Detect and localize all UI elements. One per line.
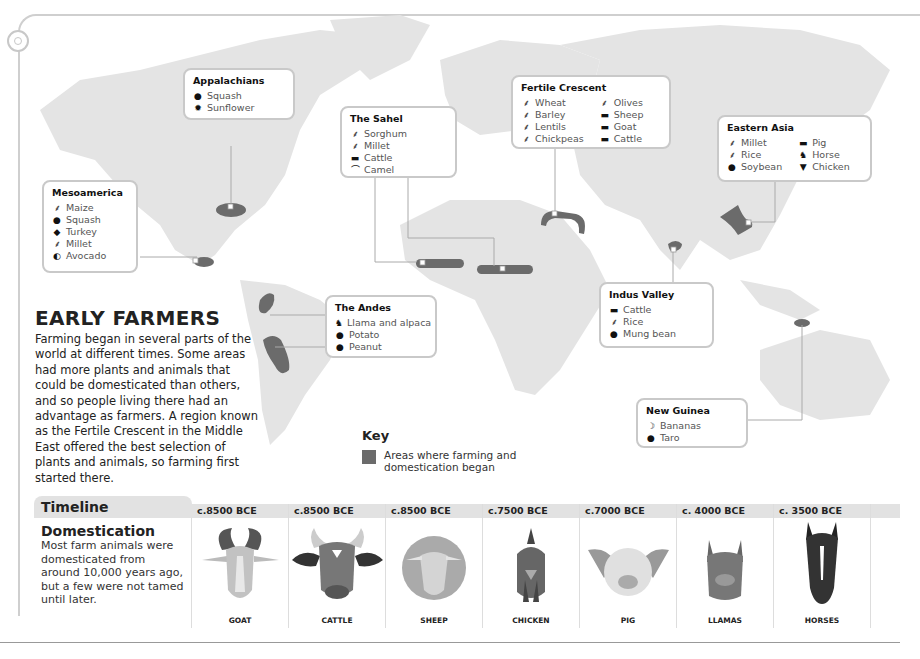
domestication-timeline: Timeline Domestication Most farm animals… (34, 496, 900, 628)
goat-head-icon (192, 520, 289, 612)
item-label: Mung bean (623, 328, 676, 340)
item-label: Millet (741, 137, 767, 149)
entry-date: c.7500 BCE (483, 504, 579, 518)
key-swatch (362, 450, 376, 464)
key-heading: Key (362, 428, 524, 443)
item-label: Sunflower (207, 102, 254, 114)
timeline-entry-llamas: c. 4000 BCE LLAMAS (677, 504, 774, 628)
horse-icon: ♞ (798, 149, 808, 161)
camel-icon: ⌒ (350, 164, 360, 176)
cattle-head-icon (289, 520, 386, 612)
card-new-guinea: New Guinea ☽Bananas ●Taro (636, 398, 748, 448)
cattle-icon: ▬ (609, 304, 619, 316)
item-label: Olives (614, 97, 643, 109)
peanut-icon: ● (335, 341, 345, 353)
card-title: Appalachians (193, 75, 285, 87)
grain-icon: ⸙ (521, 133, 531, 145)
timeline-entry-sheep: c.8500 BCE SHEEP (386, 504, 483, 628)
item-label: Goat (614, 121, 637, 133)
item-label: Turkey (66, 226, 97, 238)
bean-icon: ● (609, 328, 619, 340)
pig-icon: ▬ (798, 137, 808, 149)
intro-text: Farming began in several parts of the wo… (35, 332, 260, 486)
card-fertile-crescent: Fertile Crescent ⸙Wheat ⸙Barley ⸙Lentils… (511, 75, 671, 149)
sheep-head-icon (386, 520, 483, 612)
card-eastern-asia: Eastern Asia ⸙Millet ⸙Rice ●Soybean ▬Pig… (717, 115, 872, 182)
potato-icon: ● (335, 329, 345, 341)
timeline-heading: Domestication (41, 523, 184, 539)
item-label: Lentils (535, 121, 566, 133)
card-title: Mesoamerica (52, 187, 128, 199)
item-label: Pig (812, 137, 826, 149)
item-label: Rice (741, 149, 761, 161)
entry-animal: CATTLE (289, 616, 385, 625)
item-label: Cattle (614, 133, 642, 145)
chicken-head-icon (483, 520, 580, 612)
item-label: Squash (207, 90, 242, 102)
map-key: Key Areas where farming and domesticatio… (362, 428, 524, 473)
turkey-icon: ◆ (52, 226, 62, 238)
item-label: Cattle (623, 304, 651, 316)
grain-icon: ⸙ (727, 137, 737, 149)
entry-date: c.8500 BCE (289, 504, 385, 518)
bean-icon: ● (727, 161, 737, 173)
item-label: Camel (364, 164, 394, 176)
avocado-icon: ◐ (52, 250, 62, 262)
item-label: Chicken (812, 161, 850, 173)
item-label: Taro (660, 432, 680, 444)
item-label: Millet (364, 140, 390, 152)
llama-head-icon (677, 520, 774, 612)
item-label: Cattle (364, 152, 392, 164)
card-mesoamerica: Mesoamerica ⸙Maize ●Squash ◆Turkey ⸙Mill… (42, 180, 138, 273)
entry-animal: CHICKEN (483, 616, 579, 625)
timeline-text: Most farm animals were domesticated from… (41, 539, 184, 607)
grain-icon: ⸙ (521, 97, 531, 109)
card-title: Indus Valley (609, 289, 704, 301)
card-title: Fertile Crescent (521, 82, 661, 94)
grain-icon: ⸙ (600, 97, 610, 109)
item-label: Bananas (660, 420, 701, 432)
bottom-divider (0, 642, 900, 643)
entry-date: c.8500 BCE (386, 504, 482, 518)
timeline-intro: Domestication Most farm animals were dom… (34, 518, 192, 628)
item-label: Llama and alpaca (347, 317, 431, 329)
cattle-icon: ▬ (600, 133, 610, 145)
card-title: Eastern Asia (727, 122, 862, 134)
sunflower-icon: ✹ (193, 102, 203, 114)
item-label: Sorghum (364, 128, 407, 140)
entry-animal: HORSES (774, 616, 870, 625)
entry-date: c.7000 BCE (580, 504, 676, 518)
timeline-entry-pig: c.7000 BCE PIG (580, 504, 677, 628)
entry-animal: GOAT (192, 616, 288, 625)
squash-icon: ● (193, 90, 203, 102)
timeline-tab: Timeline (34, 496, 192, 518)
item-label: Millet (66, 238, 92, 250)
item-label: Wheat (535, 97, 566, 109)
grain-icon: ⸙ (521, 109, 531, 121)
item-label: Peanut (349, 341, 382, 353)
item-label: Rice (623, 316, 643, 328)
page-title: EARLY FARMERS (35, 306, 220, 330)
grain-icon: ⸙ (609, 316, 619, 328)
entry-animal: SHEEP (386, 616, 482, 625)
card-title: The Sahel (350, 113, 447, 125)
item-label: Sheep (614, 109, 644, 121)
entry-date: c.8500 BCE (192, 504, 288, 518)
timeline-entry-chicken: c.7500 BCE CHICKEN (483, 504, 580, 628)
horse-head-icon (774, 520, 871, 612)
banana-icon: ☽ (646, 420, 656, 432)
timeline-entry-goat: c.8500 BCE GOAT (192, 504, 289, 628)
sheep-icon: ▬ (600, 109, 610, 121)
card-sahel: The Sahel ⸙Sorghum ⸙Millet ▬Cattle ⌒Came… (340, 106, 457, 178)
card-andes: The Andes ♞Llama and alpaca ●Potato ●Pea… (325, 295, 437, 358)
key-label: Areas where farming and domestication be… (384, 449, 524, 473)
grain-icon: ⸙ (727, 149, 737, 161)
item-label: Squash (66, 214, 101, 226)
item-label: Horse (812, 149, 840, 161)
entry-date: c. 3500 BCE (774, 504, 870, 518)
entry-animal: PIG (580, 616, 676, 625)
timeline-entry-horses: c. 3500 BCE HORSES (774, 504, 871, 628)
chicken-icon: ▼ (798, 161, 808, 173)
grain-icon: ⸙ (521, 121, 531, 133)
card-title: New Guinea (646, 405, 738, 417)
